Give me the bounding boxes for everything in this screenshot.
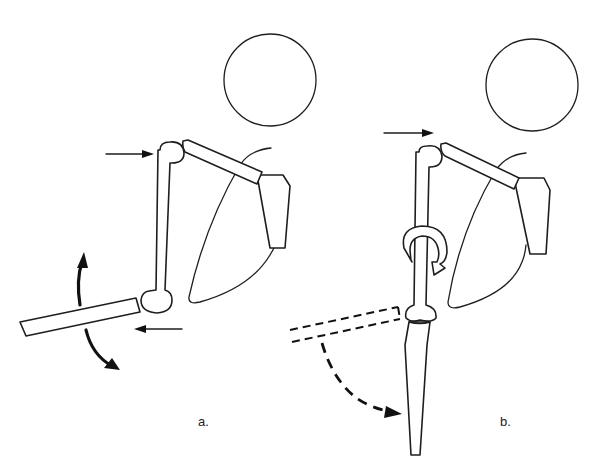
panel-b (290, 39, 578, 455)
panel-a (20, 34, 316, 370)
panel-label-b: b. (500, 414, 511, 429)
dashed-curved-arrow-b (322, 343, 392, 412)
scapula-b (514, 178, 550, 254)
arrowhead-up-a (77, 252, 88, 268)
curved-arrow-up-a (78, 262, 82, 305)
arrowhead-left-elbow-a (134, 325, 146, 333)
forearm-b (405, 322, 430, 455)
dashed-forearm-bottom-b (292, 319, 400, 342)
curved-arrow-down-a (86, 330, 112, 366)
scapula-a (257, 175, 290, 248)
clavicle-a (183, 140, 262, 184)
head-circle-b (486, 39, 578, 131)
arrowhead-right-shoulder-b (422, 129, 434, 137)
arrowhead-right-shoulder-a (142, 150, 154, 158)
dashed-arrowhead-b (384, 406, 402, 418)
dashed-forearm-end-b (398, 307, 400, 319)
head-circle-a (224, 34, 316, 126)
clavicle-b (441, 143, 519, 189)
dashed-forearm-top-b (290, 307, 398, 330)
humerus-a (141, 142, 184, 313)
anatomical-figure: a. b. (0, 0, 597, 469)
panel-label-a: a. (198, 414, 209, 429)
